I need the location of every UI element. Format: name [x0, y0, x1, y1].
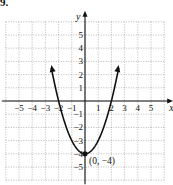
vertex-point — [82, 151, 87, 156]
y-tick-label: −3 — [73, 136, 83, 146]
parabola-graph: −5−4−3−2−112345−5−4−3−2−112345 (0, −4) x… — [0, 0, 173, 185]
y-tick-label: −2 — [73, 122, 83, 132]
x-tick-label: 3 — [122, 103, 127, 113]
x-axis-label: x — [168, 102, 173, 113]
x-tick-label: −3 — [41, 103, 51, 113]
y-tick-label: −5 — [73, 162, 83, 172]
y-tick-label: −1 — [73, 109, 83, 119]
y-tick-label: 4 — [79, 43, 84, 53]
vertex-label: (0, −4) — [89, 156, 115, 167]
x-tick-label: −4 — [27, 103, 37, 113]
y-tick-label: 3 — [79, 56, 84, 66]
x-tick-label: 4 — [136, 103, 141, 113]
y-tick-label: 1 — [79, 83, 84, 93]
y-tick-label: 2 — [79, 70, 84, 80]
axes — [2, 11, 173, 184]
x-tick-label: 5 — [149, 103, 154, 113]
y-tick-label: 5 — [79, 30, 84, 40]
y-axis-label: y — [75, 11, 81, 22]
x-tick-label: −5 — [14, 103, 24, 113]
x-tick-label: 1 — [96, 103, 101, 113]
